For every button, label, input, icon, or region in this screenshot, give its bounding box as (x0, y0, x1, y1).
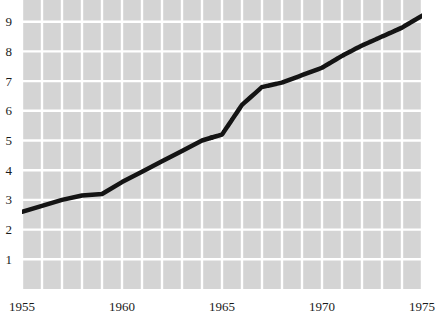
x-tick-label: 1975 (392, 300, 440, 314)
y-tick-label: 4 (0, 164, 12, 177)
y-tick-label: 5 (0, 134, 12, 147)
y-tick-label: 8 (0, 45, 12, 58)
series-line-observed (22, 138, 212, 212)
plot-area (22, 0, 422, 289)
y-tick-label: 2 (0, 223, 12, 236)
x-tick-label: 1970 (292, 300, 352, 314)
y-tick-label: 9 (0, 15, 12, 28)
x-tick-label: 1965 (192, 300, 252, 314)
data-series-layer (22, 0, 422, 289)
x-tick-label: 1960 (92, 300, 152, 314)
x-tick-label: 1955 (0, 300, 52, 314)
y-tick-label: 6 (0, 104, 12, 117)
y-tick-label: 3 (0, 193, 12, 206)
series-line-projected (212, 16, 422, 138)
y-tick-label: 1 (0, 253, 12, 266)
y-tick-label: 7 (0, 75, 12, 88)
